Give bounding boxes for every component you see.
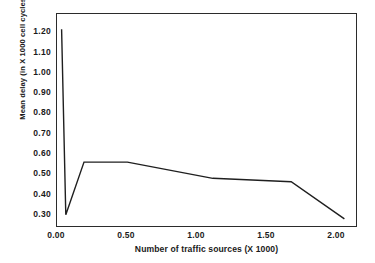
chart-figure: 1.201.101.000.900.800.700.600.500.400.30… xyxy=(0,0,375,263)
data-series-layer xyxy=(0,0,375,263)
series-line xyxy=(62,29,345,219)
